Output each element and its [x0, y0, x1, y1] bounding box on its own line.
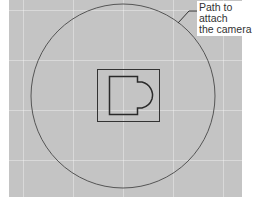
floor-plan-outline	[110, 77, 153, 115]
camera-path-circle	[31, 4, 215, 188]
annotation-line-1: Path to attach	[199, 2, 263, 24]
annotation-label: Path to attach the camera	[197, 1, 264, 36]
outer-rectangle	[98, 70, 160, 122]
annotation-line-2: the camera	[199, 24, 263, 35]
annotation-leader-line	[178, 11, 197, 23]
